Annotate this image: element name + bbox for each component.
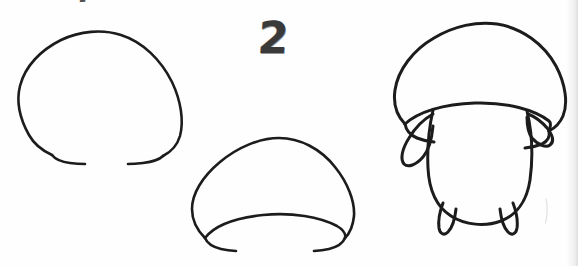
step-2-drawing: Step 2 — cap with curved underside rim l… xyxy=(180,130,380,260)
cap-right-rim-tip-path xyxy=(314,238,345,251)
cap-left-rim-tip-path xyxy=(52,155,85,164)
cap-outline-path xyxy=(18,32,181,156)
left-foot-path xyxy=(439,203,456,234)
cap-left-rim-tip-path xyxy=(205,238,236,251)
step-numeral-2: 2 xyxy=(256,16,289,60)
step-1-drawing: Step 1 — mushroom cap outline, open at t… xyxy=(0,22,200,172)
faint-pencil-mark xyxy=(543,198,548,224)
cap-right-rim-tip-path xyxy=(128,156,163,164)
body-outline-path xyxy=(428,110,532,224)
drawing-page: Step 1 — mushroom cap outline, open at t… xyxy=(0,0,578,266)
cap-underside-rim-path xyxy=(205,214,345,238)
drawing-canvas: Step 1 — mushroom cap outline, open at t… xyxy=(0,0,578,266)
